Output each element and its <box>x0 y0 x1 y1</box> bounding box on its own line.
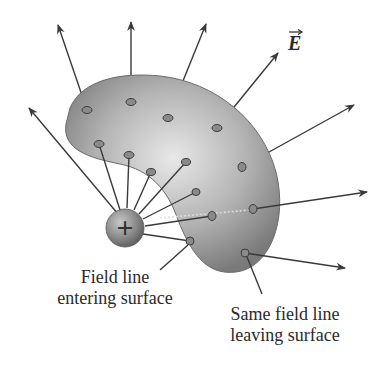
label-leaving-line2: leaving surface <box>230 325 339 345</box>
leader-line-entering <box>160 245 188 270</box>
field-line-entering <box>143 234 190 241</box>
e-field-symbol: E <box>287 32 301 54</box>
label-entering-line1: Field line <box>81 267 150 287</box>
label-entering-line2: entering surface <box>57 288 172 308</box>
positive-charge: + <box>106 209 144 247</box>
e-field-label: E <box>287 30 302 55</box>
plus-sign: + <box>116 211 133 244</box>
label-leaving-line1: Same field line <box>231 304 340 324</box>
field-line-leaving <box>245 253 345 268</box>
closed-surface <box>66 75 280 272</box>
gauss-surface-diagram: + E Field line entering surface Same fie… <box>0 0 381 370</box>
